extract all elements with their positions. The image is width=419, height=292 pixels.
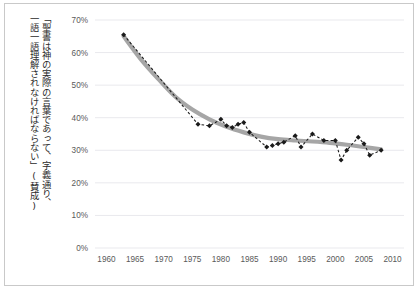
y-axis-tick-label: 0% — [76, 244, 88, 253]
x-axis-tick-label: 1960 — [97, 255, 116, 264]
y-axis-tick-label: 60% — [72, 49, 88, 58]
data-point-marker — [196, 122, 201, 127]
chart-plot: 0%10%20%30%40%50%60%70% 1960196519701975… — [0, 0, 419, 292]
y-axis-tick-label: 40% — [72, 114, 88, 123]
data-series-line — [124, 35, 382, 160]
x-axis-tick-labels: 1960196519701975198019851990199520002005… — [97, 255, 402, 264]
data-point-marker — [207, 123, 212, 128]
x-axis-tick-label: 2005 — [355, 255, 374, 264]
data-point-marker — [264, 145, 269, 150]
y-axis-tick-label: 70% — [72, 16, 88, 25]
x-axis-tick-label: 1990 — [269, 255, 288, 264]
x-axis-tick-label: 1985 — [240, 255, 259, 264]
data-point-marker — [236, 122, 241, 127]
data-point-marker — [276, 141, 281, 146]
x-axis-tick-label: 1965 — [126, 255, 145, 264]
y-axis-tick-label: 20% — [72, 179, 88, 188]
data-point-marker — [367, 153, 372, 158]
y-axis-tick-label: 50% — [72, 81, 88, 90]
data-point-marker — [270, 143, 275, 148]
data-point-marker — [293, 133, 298, 138]
chart-figure: 「聖書は神の実際の言葉であって、字義通り、一語一語理解されなければならない」(賛… — [0, 0, 419, 292]
y-axis-tick-label: 30% — [72, 146, 88, 155]
y-axis-tick-labels: 0%10%20%30%40%50%60%70% — [72, 16, 88, 253]
y-axis-tick-label: 10% — [72, 211, 88, 220]
x-axis-tick-label: 1970 — [155, 255, 174, 264]
trend-line — [124, 36, 382, 149]
x-axis-tick-label: 1975 — [183, 255, 202, 264]
x-axis-tick-label: 1980 — [212, 255, 231, 264]
data-point-marker — [339, 158, 344, 163]
data-point-marker — [241, 120, 246, 125]
x-axis-tick-label: 2000 — [326, 255, 345, 264]
x-axis-tick-label: 2010 — [383, 255, 402, 264]
data-point-marker — [299, 145, 304, 150]
x-axis-tick-label: 1995 — [298, 255, 317, 264]
data-point-marker — [356, 135, 361, 140]
